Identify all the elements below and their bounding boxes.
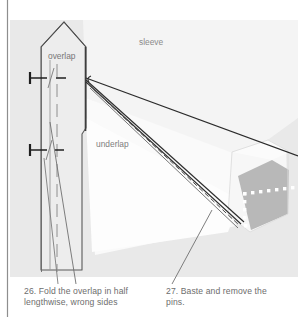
caption-26: 26. Fold the overlap in half lengthwise,…	[24, 286, 156, 309]
label-underlap: underlap	[96, 139, 129, 149]
caption-27: 27. Baste and remove the pins.	[166, 286, 288, 309]
sewing-diagram-illustration: overlap sleeve underlap	[0, 0, 298, 317]
label-overlap: overlap	[48, 51, 76, 61]
label-sleeve: sleeve	[139, 37, 164, 47]
figure-canvas: overlap sleeve underlap 26. Fold the ove…	[0, 0, 298, 317]
